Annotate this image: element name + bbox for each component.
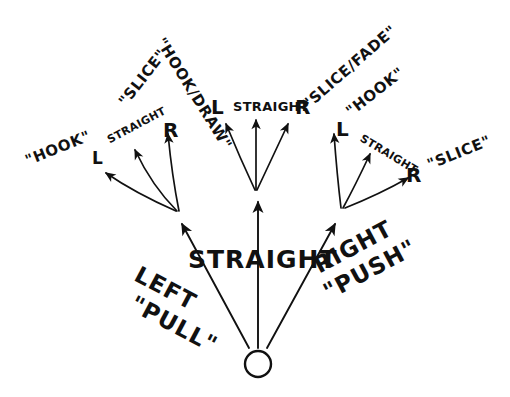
label-center-group-L: L xyxy=(211,95,224,119)
right-group-arrow-L xyxy=(334,134,341,208)
golf-ball-icon xyxy=(245,351,271,377)
label-right-group-L: L xyxy=(336,117,349,141)
flight-paths-svg xyxy=(0,0,510,397)
label-left-group-L: L xyxy=(92,148,103,168)
label-right-group-R: R xyxy=(406,163,421,187)
right-group-arrow-R xyxy=(345,178,408,208)
label-left-group-R: R xyxy=(163,118,178,142)
left-group-arrow-L xyxy=(106,173,176,211)
ball-flight-diagram: "HOOK" L STRAIGHT R "SLICE" "HOOK/DRAW" … xyxy=(0,0,510,397)
left-group-arrow-R xyxy=(168,134,179,211)
center-group-arrow-R xyxy=(257,124,288,190)
